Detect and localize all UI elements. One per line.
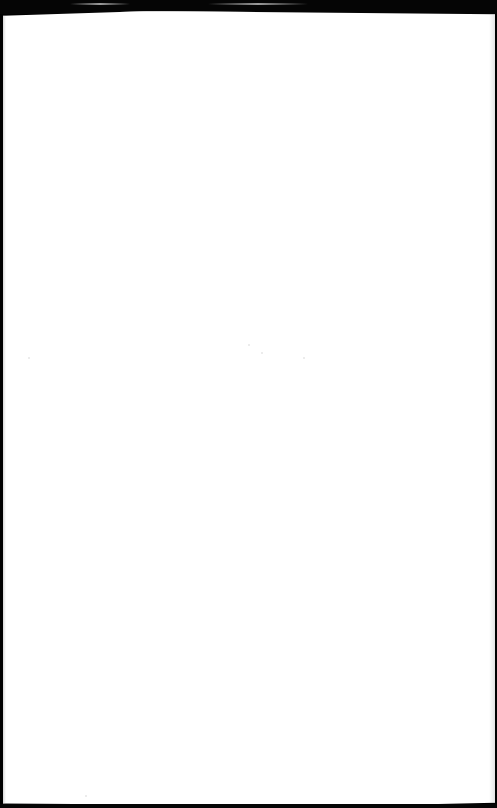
glare-mark bbox=[208, 3, 308, 5]
sheet-left-edge bbox=[3, 12, 6, 806]
sheet-right-edge bbox=[489, 12, 495, 806]
speck bbox=[85, 795, 87, 797]
speck bbox=[248, 344, 250, 346]
speck bbox=[303, 357, 305, 359]
speck bbox=[28, 357, 30, 359]
top-dark-border bbox=[0, 0, 497, 14]
bottom-dark-border bbox=[0, 804, 497, 808]
blank-sheet bbox=[3, 11, 495, 806]
speck bbox=[261, 352, 263, 354]
glare-mark bbox=[70, 3, 130, 5]
